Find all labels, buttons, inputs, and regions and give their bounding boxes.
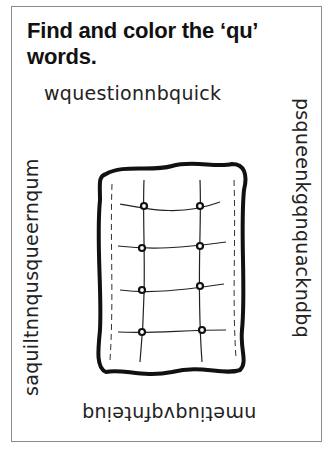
letter-row-top: wquestionnbquick <box>44 82 221 104</box>
letter-column-left: saquiltnnqusqueernqum <box>20 158 42 396</box>
letter-row-bottom: nmetiuqvqfnteiuq <box>38 403 300 425</box>
worksheet-title: Find and color the ‘qu’ words. <box>27 18 317 70</box>
letter-column-right: psqueenkgqnquackndbq <box>292 98 314 338</box>
quilt-icon <box>92 150 252 380</box>
